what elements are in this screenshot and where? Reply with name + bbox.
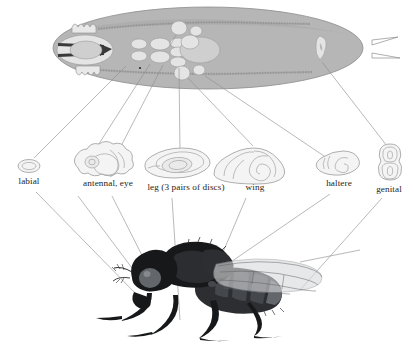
fly-midleg — [150, 295, 178, 335]
disc-label-genital: genital — [376, 184, 402, 194]
larva-disc-eye-antennal-2 — [150, 51, 170, 63]
disc-label-wing: wing — [246, 182, 265, 192]
disc-label-labial: labial — [18, 176, 39, 186]
larva-brain-lobe — [181, 35, 199, 49]
larva-ventral-dot — [139, 67, 141, 69]
larva-disc-labial-2 — [131, 51, 147, 61]
disc-label-antennal-eye: antennal, eye — [83, 178, 133, 188]
disc-antennal-outline — [74, 142, 133, 176]
fly-foreleg-tarsus — [96, 316, 122, 320]
disc-genital: genital — [376, 144, 402, 194]
adult-fly-illustration — [96, 237, 322, 341]
fly-midleg-tarsus — [127, 332, 153, 337]
disc-labial-outline — [18, 160, 40, 173]
pharynx — [70, 41, 102, 59]
fly-compound-eye — [139, 268, 161, 288]
larva-disc-eye-antennal — [150, 38, 170, 50]
larva-posterior-notch — [372, 37, 398, 45]
larva-disc-labial — [131, 39, 147, 49]
disc-labial: labial — [18, 160, 40, 187]
larva-illustration — [53, 7, 400, 89]
leader-haltere-down — [222, 194, 330, 268]
larva-disc-haltere-ventral — [193, 65, 205, 75]
leader-haltere-up — [205, 76, 330, 160]
leader-labial-down — [36, 192, 140, 298]
figure-canvas: labial antennal, eye leg (3 pairs of dis… — [0, 0, 414, 351]
larva-disc-haltere — [190, 26, 202, 36]
diagram-svg: labial antennal, eye leg (3 pairs of dis… — [0, 0, 414, 351]
disc-wing-outline — [214, 148, 285, 184]
leader-genital-up — [322, 62, 387, 146]
larva-disc-leg-3 — [170, 57, 186, 67]
disc-label-leg: leg (3 pairs of discs) — [147, 182, 224, 192]
fly-arista-1 — [114, 268, 132, 273]
larva-disc-wing — [171, 21, 187, 35]
disc-haltere: haltere — [316, 151, 359, 188]
disc-leg: leg (3 pairs of discs) — [145, 148, 225, 192]
fly-hindleg-2-tarsus — [254, 336, 282, 338]
disc-label-haltere: haltere — [326, 178, 352, 188]
larva-posterior-notch-2 — [372, 53, 400, 58]
disc-antennal-eye-field — [85, 156, 99, 168]
fly-eye-highlight — [144, 271, 151, 277]
fly-haltere — [208, 281, 216, 287]
larva-disc-wing-ventral — [174, 66, 190, 80]
fly-hindleg-tarsus — [200, 338, 230, 341]
disc-antennal-eye: antennal, eye — [74, 142, 133, 189]
leader-wing-tip — [300, 250, 360, 262]
